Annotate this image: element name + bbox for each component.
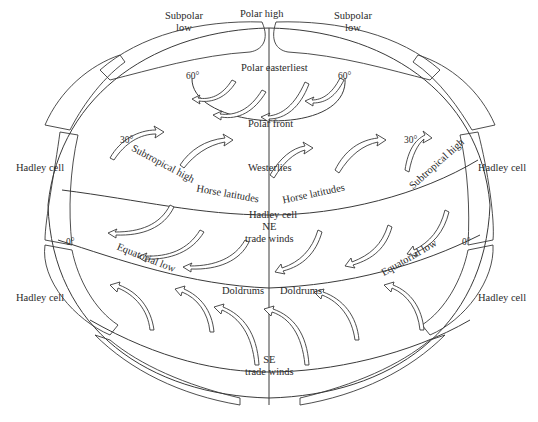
lat-60-right: 60° <box>338 70 351 82</box>
se-trade-line2: trade winds <box>245 366 294 378</box>
doldrums-left-label: Doldrums <box>222 285 264 297</box>
southern-cell-right <box>300 335 445 405</box>
se-trade-winds-label: SE trade winds <box>245 354 294 378</box>
subpolar-low-left-label: Subpolar low <box>165 10 203 34</box>
se-trade-line1: SE <box>245 354 294 366</box>
lat-0-right: 0° <box>462 236 471 248</box>
lat-0-left: 0° <box>66 236 75 248</box>
subpolar-low-right-label: Subpolar low <box>334 10 372 34</box>
ne-trade-winds-label: NE trade winds <box>245 221 294 245</box>
atmospheric-circulation-diagram: Polar high Subpolar low Subpolar low 60°… <box>0 0 538 422</box>
westerlies-label: Westerlies <box>248 162 291 174</box>
subpolar-low-right-line2: low <box>334 22 372 34</box>
ferrel-cell-left <box>45 55 125 130</box>
polar-high-label: Polar high <box>240 8 283 20</box>
arrow-polar-easterly-3 <box>261 82 309 122</box>
hadley-cell-left-lower-label: Hadley cell <box>16 292 64 304</box>
hadley-cell-right-lower-label: Hadley cell <box>478 292 526 304</box>
arrow-se-trade-6 <box>384 282 424 330</box>
subpolar-low-left-line2: low <box>165 22 203 34</box>
ne-trade-line2: trade winds <box>245 233 294 245</box>
hadley-cell-right-lower <box>422 245 493 335</box>
arrow-westerly-2 <box>180 134 233 168</box>
hadley-cell-left-upper-label: Hadley cell <box>16 162 64 174</box>
arrow-se-trade-1 <box>110 282 154 330</box>
polar-front-label: Polar front <box>248 118 293 130</box>
arrow-polar-easterly-1 <box>192 80 236 104</box>
southern-cell-left <box>95 335 240 405</box>
hadley-cell-left-lower <box>45 245 118 335</box>
ferrel-cell-right <box>413 55 495 130</box>
subpolar-low-left-line1: Subpolar <box>165 10 203 22</box>
hadley-cell-right-upper-label: Hadley cell <box>478 162 526 174</box>
ne-trade-line1: NE <box>245 221 294 233</box>
arrow-se-trade-2 <box>175 286 214 332</box>
arrow-westerly-4 <box>335 134 386 173</box>
arrow-polar-easterly-4 <box>305 78 344 106</box>
lat-30-right: 30° <box>404 134 417 146</box>
subpolar-low-right-line1: Subpolar <box>334 10 372 22</box>
lat-30-left: 30° <box>120 134 133 146</box>
hadley-cell-center-label: Hadley cell <box>249 209 297 221</box>
arrow-ne-trade-5 <box>345 225 392 268</box>
doldrums-right-label: Doldrums <box>280 285 322 297</box>
lat-60-left: 60° <box>186 70 199 82</box>
arrow-ne-trade-1 <box>108 205 174 238</box>
polar-easterlies-label: Polar easterliest <box>241 62 308 74</box>
